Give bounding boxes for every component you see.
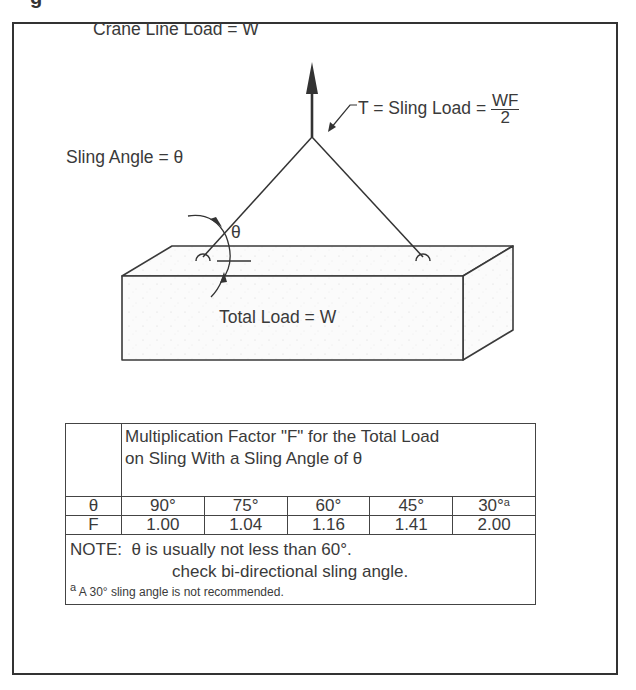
footnote-marker: a [504, 496, 510, 508]
factor-cell: 1.16 [287, 516, 370, 535]
table-note-row: NOTE: θ is usually not less than 60°. ch… [66, 535, 536, 605]
header-line-1: Multiplication Factor "F" for the Total … [125, 427, 439, 446]
total-load-label: Total Load = W [219, 307, 336, 328]
table-note-cell: NOTE: θ is usually not less than 60°. ch… [66, 535, 536, 605]
fraction-denominator: 2 [491, 110, 519, 126]
table-header-cell: Multiplication Factor "F" for the Total … [122, 424, 536, 497]
table-row: θ 90° 75° 60° 45° 30°a [66, 497, 536, 516]
row-label-theta: θ [66, 497, 122, 516]
sling-load-label: T = Sling Load = WF 2 [358, 93, 519, 126]
crane-line-load-label: Crane Line Load = W [93, 19, 259, 40]
load-block [122, 246, 513, 360]
angle-cell: 90° [122, 497, 205, 516]
note-line-1: NOTE: θ is usually not less than 60°. [70, 539, 531, 561]
angle-cell-30: 30°a [453, 497, 536, 516]
footnote: a A 30° sling angle is not recommended. [70, 583, 531, 601]
angle-cell: 60° [287, 497, 370, 516]
table-header-row: Multiplication Factor "F" for the Total … [66, 424, 536, 497]
angle-value: 30° [478, 496, 504, 515]
factor-cell: 1.00 [122, 516, 205, 535]
sling-angle-label: Sling Angle = θ [66, 147, 183, 168]
sling-load-fraction: WF 2 [491, 93, 519, 126]
footnote-marker: a [70, 581, 76, 593]
factor-cell: 1.04 [204, 516, 287, 535]
footnote-text: A 30° sling angle is not recommended. [79, 585, 284, 599]
header-line-2: on Sling With a Sling Angle of θ [125, 449, 362, 468]
crane-line-arrow-icon [306, 62, 318, 137]
sling-load-text: T = Sling Load = [358, 98, 486, 118]
factor-cell: 2.00 [453, 516, 536, 535]
sling-load-leader [328, 105, 357, 132]
table-row: F 1.00 1.04 1.16 1.41 2.00 [66, 516, 536, 535]
note-line-2: check bi-directional sling angle. [70, 561, 531, 583]
multiplication-factor-table: Multiplication Factor "F" for the Total … [65, 423, 536, 605]
angle-cell: 75° [204, 497, 287, 516]
angle-cell: 45° [370, 497, 453, 516]
table-corner-cell [66, 424, 122, 497]
row-label-f: F [66, 516, 122, 535]
factor-cell: 1.41 [370, 516, 453, 535]
theta-symbol: θ [231, 222, 241, 243]
block-top-face [122, 246, 513, 276]
